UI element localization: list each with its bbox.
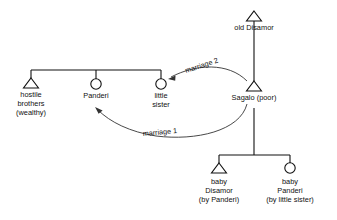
- node-label-hostile-brothers-line1: hostile: [20, 90, 41, 99]
- node-label-old-disamor: old Disamor: [234, 23, 274, 32]
- node-label-hostile-brothers-line2: brothers: [17, 99, 44, 108]
- triangle-icon-sagalo: [247, 81, 262, 91]
- node-label-baby-disamor-line1: baby: [211, 177, 227, 186]
- node-label-baby-panderi-line1: baby: [282, 177, 298, 186]
- node-label-baby-disamor-line2: Disamor: [205, 186, 233, 195]
- marriage-2-arc: [171, 67, 247, 81]
- marriage-1-label: marriage 1: [142, 126, 177, 138]
- node-label-hostile-brothers-line3: (wealthy): [16, 108, 46, 117]
- node-label-baby-disamor-line3: (by Panderi): [199, 195, 239, 204]
- triangle-icon-baby-disamor: [212, 163, 227, 173]
- circle-icon-little-sister: [156, 79, 166, 89]
- triangle-icon-hostile-brothers: [24, 78, 39, 88]
- circle-icon-baby-panderi: [285, 163, 295, 173]
- node-label-panderi: Panderi: [83, 91, 109, 100]
- triangle-icon-old-disamor: [247, 11, 262, 21]
- node-label-baby-panderi-line3: (by little sister): [266, 195, 314, 204]
- kinship-diagram: old Disamor hostile brothers (wealthy) P…: [0, 0, 337, 220]
- marriage-2-label: marriage 2: [184, 56, 219, 75]
- node-label-baby-panderi-line2: Panderi: [277, 186, 303, 195]
- node-label-little-sister-line2: sister: [152, 100, 170, 109]
- node-label-sagalo: Sagalo (poor): [232, 93, 277, 102]
- circle-icon-panderi: [91, 79, 101, 89]
- node-label-little-sister-line1: little: [154, 91, 167, 100]
